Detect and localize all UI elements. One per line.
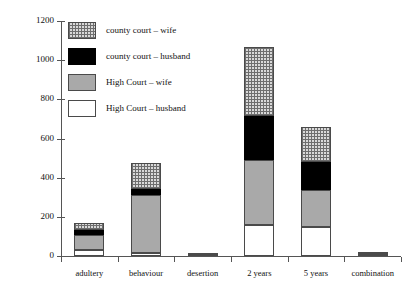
bar-segment-adultery-crosshatch: [74, 223, 104, 230]
bar-segment-2-years-crosshatch: [244, 47, 274, 116]
bar-2-years: [244, 47, 274, 256]
y-tick-label-600: 600: [20, 134, 54, 143]
y-tick-1000: [57, 60, 65, 61]
x-tick-label-2-years: 2 years: [231, 268, 288, 278]
bar-behaviour: [131, 163, 161, 256]
bar-segment-behaviour-black: [131, 189, 161, 195]
x-tick-5: [344, 257, 345, 262]
bar-segment-5-years-black: [301, 162, 331, 190]
y-tick-400: [57, 178, 65, 179]
legend-label-2: High Court – wife: [106, 76, 172, 88]
bar-segment-2-years-black: [244, 116, 274, 160]
x-tick-2: [174, 257, 175, 262]
legend-swatch-black: [68, 48, 96, 65]
bar-desertion: [188, 254, 218, 256]
y-tick-800: [57, 99, 65, 100]
bar-segment-adultery-white: [74, 250, 104, 256]
legend-label-3: High Court – husband: [106, 102, 186, 114]
bar-segment-behaviour-crosshatch: [131, 163, 161, 189]
bar-segment-combination-grey: [358, 252, 388, 254]
bar-combination: [358, 252, 388, 256]
x-tick-6: [401, 257, 402, 262]
y-tick-label-1000: 1000: [20, 55, 54, 64]
x-tick-label-adultery: adultery: [61, 268, 118, 278]
x-tick-3: [231, 257, 232, 262]
bar-segment-5-years-grey: [301, 190, 331, 226]
legend-swatch-white: [68, 100, 96, 117]
x-tick-0: [61, 257, 62, 262]
y-tick-label-1200: 1200: [20, 16, 54, 25]
x-tick-label-behaviour: behaviour: [118, 268, 175, 278]
y-tick-label-0: 0: [20, 251, 54, 260]
y-tick-label-800: 800: [20, 94, 54, 103]
x-tick-label-5-years: 5 years: [288, 268, 345, 278]
bar-segment-behaviour-grey: [131, 195, 161, 253]
x-tick-4: [288, 257, 289, 262]
bar-segment-5-years-crosshatch: [301, 127, 331, 162]
y-tick-label-400: 400: [20, 173, 54, 182]
legend-label-0: county court – wife: [106, 24, 176, 36]
legend-swatch-grey: [68, 74, 96, 91]
x-tick-label-desertion: desertion: [174, 268, 231, 278]
bar-adultery: [74, 223, 104, 256]
bar-segment-desertion-grey: [188, 253, 218, 255]
y-tick-label-200: 200: [20, 212, 54, 221]
legend-label-1: county court – husband: [106, 50, 190, 62]
bar-segment-adultery-grey: [74, 235, 104, 250]
bar-segment-behaviour-white: [131, 253, 161, 256]
bar-chart: 020040060080010001200 adulterybehaviourd…: [0, 0, 413, 301]
bar-segment-2-years-grey: [244, 160, 274, 225]
x-tick-1: [118, 257, 119, 262]
bar-segment-adultery-black: [74, 230, 104, 236]
legend-swatch-crosshatch: [68, 22, 96, 39]
bar-segment-2-years-white: [244, 225, 274, 256]
y-tick-200: [57, 217, 65, 218]
bar-segment-5-years-white: [301, 227, 331, 256]
bar-5-years: [301, 127, 331, 256]
y-tick-600: [57, 139, 65, 140]
y-tick-1200: [57, 21, 65, 22]
x-tick-label-combination: combination: [344, 268, 401, 278]
